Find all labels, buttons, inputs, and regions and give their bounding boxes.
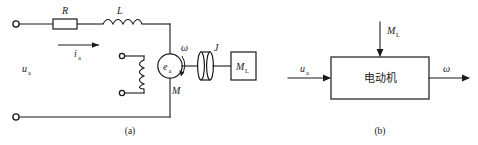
output-speed-label: ω <box>443 63 450 74</box>
disturbance-arrow-head <box>377 49 384 57</box>
disturbance-torque-subscript: L <box>396 31 400 38</box>
resistor-label: R <box>61 5 68 16</box>
disturbance-torque-label: M L <box>386 25 400 38</box>
flywheel-right-face <box>207 52 214 80</box>
figure-canvas: R L u a i a e a M ω J M L (a) <box>0 0 478 145</box>
back-emf-base: e <box>163 61 168 72</box>
inertia-label: J <box>214 42 219 53</box>
load-torque-subscript-a: L <box>245 67 249 74</box>
motor-block-label: 电动机 <box>364 71 397 85</box>
input-voltage-label: u a <box>300 63 309 76</box>
resistor-R <box>53 19 77 29</box>
current-arrow-head <box>92 42 99 48</box>
input-voltage-base: u <box>300 63 305 74</box>
terminal-field-top <box>119 53 124 58</box>
field-winding-coil <box>140 60 145 89</box>
input-voltage-arrow-head <box>323 75 331 82</box>
flywheel-J <box>198 52 214 80</box>
source-voltage-subscript: a <box>28 69 31 76</box>
terminal-bottom-left <box>13 114 19 120</box>
source-voltage-label: u a <box>22 63 31 76</box>
load-torque-base-a: M <box>235 61 245 72</box>
caption-b: (b) <box>374 126 385 137</box>
current-base: i <box>74 48 77 59</box>
input-voltage-subscript: a <box>306 69 309 76</box>
inductor-L <box>103 20 142 25</box>
panel-a: R L u a i a e a M ω J M L (a) <box>13 5 256 137</box>
motor-mark-label: M <box>171 85 181 96</box>
figure-root: R L u a i a e a M ω J M L (a) <box>0 0 478 145</box>
flywheel-left-face <box>198 52 205 80</box>
motor-armature-circle <box>158 54 182 78</box>
inductor-label: L <box>116 5 123 16</box>
caption-a: (a) <box>125 126 136 137</box>
disturbance-torque-base: M <box>386 25 396 36</box>
back-emf-subscript: a <box>169 67 172 74</box>
current-subscript: a <box>78 54 81 61</box>
panel-b: 电动机 u a M L ω (b) <box>288 22 470 137</box>
terminal-field-bottom <box>119 90 124 95</box>
current-label: i a <box>74 48 81 61</box>
angular-velocity-label-a: ω <box>181 42 188 53</box>
source-voltage-base: u <box>22 63 27 74</box>
terminal-top-left <box>13 21 19 27</box>
output-speed-arrow-head <box>462 75 470 82</box>
